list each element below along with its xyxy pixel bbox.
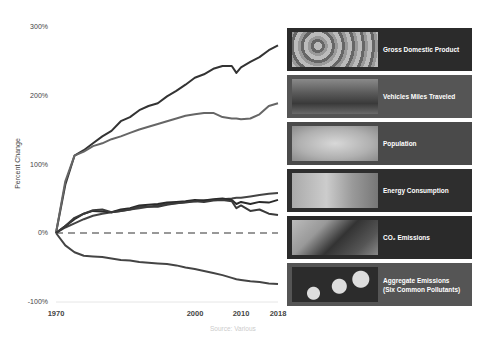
legend-label: Energy Consumption — [383, 186, 449, 195]
legend-label: Aggregate Emissions (Six Common Pollutan… — [383, 276, 463, 294]
series-lines — [56, 45, 278, 284]
legend: Gross Domestic Product Vehicles Miles Tr… — [287, 28, 472, 310]
legend-label: Population — [383, 139, 417, 148]
exhaust-pipe-image-icon — [292, 220, 378, 255]
traffic-image-icon — [292, 79, 378, 114]
smokestacks-image-icon — [292, 267, 378, 302]
legend-item-vmt: Vehicles Miles Traveled — [287, 75, 472, 118]
legend-item-population: Population — [287, 122, 472, 165]
legend-item-aggregate-emissions: Aggregate Emissions (Six Common Pollutan… — [287, 263, 472, 306]
legend-label: CO₂ Emissions — [383, 233, 430, 242]
series-line-5 — [56, 233, 278, 284]
legend-label: Gross Domestic Product — [383, 45, 459, 54]
plug-image-icon — [292, 173, 378, 208]
legend-item-energy: Energy Consumption — [287, 169, 472, 212]
legend-item-gdp: Gross Domestic Product — [287, 28, 472, 71]
legend-label: Vehicles Miles Traveled — [383, 92, 455, 101]
series-line-1 — [56, 103, 278, 233]
baby-face-image-icon — [292, 126, 378, 161]
source-note: Source: Various — [210, 325, 256, 332]
legend-item-co2: CO₂ Emissions — [287, 216, 472, 259]
coins-image-icon — [292, 32, 378, 67]
